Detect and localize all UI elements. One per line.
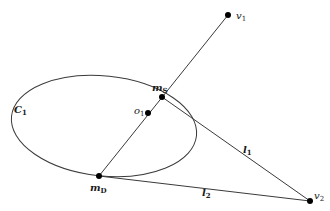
label-ms: mS (152, 82, 168, 95)
point-md (96, 173, 102, 179)
diagram-canvas: v1 v2 mS o1 mD C1 l1 l2 (0, 0, 330, 211)
label-v1: v1 (236, 10, 246, 23)
label-md: mD (90, 182, 107, 195)
label-o1: o1 (134, 105, 145, 118)
point-v2 (307, 198, 313, 204)
diagram-svg: v1 v2 mS o1 mD C1 l1 l2 (0, 0, 330, 211)
point-o1 (145, 110, 151, 116)
line-l1 (162, 97, 310, 201)
label-c1: C1 (14, 104, 27, 117)
label-v2: v2 (314, 190, 324, 203)
point-v1 (225, 12, 231, 18)
